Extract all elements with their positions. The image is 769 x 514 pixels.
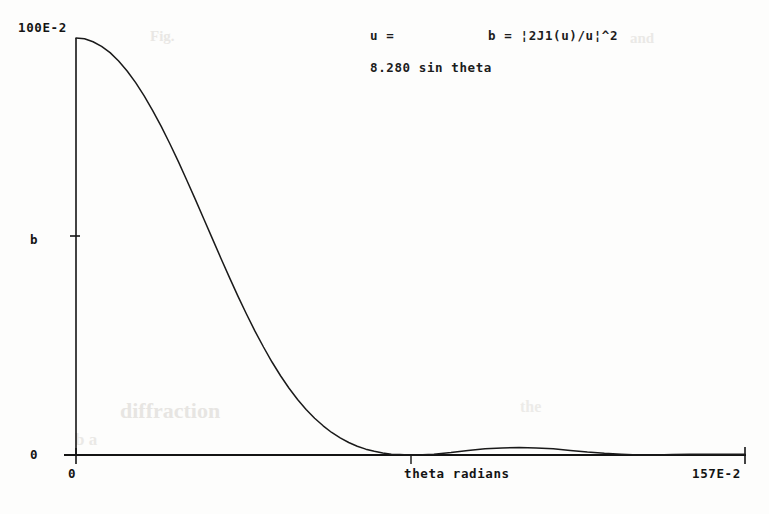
y-axis-max-label: 100E-2 <box>18 20 67 35</box>
figure-page: Fig. and diffraction b a the 100E-2 b 0 … <box>0 0 769 514</box>
x-axis-max-label: 157E-2 <box>692 466 741 481</box>
y-axis-min-label: 0 <box>30 447 38 462</box>
plot-canvas <box>0 0 769 514</box>
airy-intensity-curve <box>76 38 745 455</box>
annotation-formula: b = ¦2J1(u)/u¦^2 <box>488 28 618 43</box>
x-axis-title: theta radians <box>404 466 510 481</box>
annotation-u-label: u = <box>370 28 394 43</box>
x-axis-min-label: 0 <box>68 466 76 481</box>
y-axis-title: b <box>30 232 38 247</box>
annotation-u-value: 8.280 sin theta <box>370 60 492 75</box>
